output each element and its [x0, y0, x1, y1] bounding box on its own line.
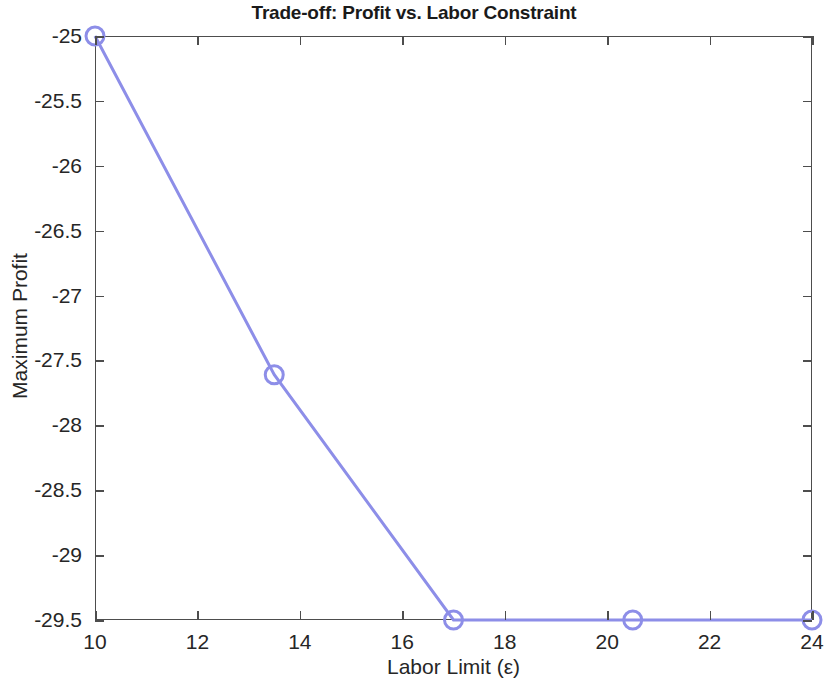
- x-axis-tick: [812, 36, 814, 45]
- y-axis-tick: [803, 166, 812, 168]
- y-axis-tick-label: -27.5: [0, 348, 82, 372]
- y-axis-tick: [95, 425, 104, 427]
- y-axis-tick: [95, 36, 104, 38]
- x-axis-tick: [607, 36, 609, 45]
- x-axis-tick: [402, 611, 404, 620]
- y-axis-tick: [95, 490, 104, 492]
- y-axis-tick: [803, 101, 812, 103]
- y-axis-tick: [803, 231, 812, 233]
- x-axis-tick: [710, 611, 712, 620]
- x-axis-tick-label: 10: [83, 630, 106, 654]
- y-axis-tick-label: -25.5: [0, 89, 82, 113]
- y-axis-tick: [95, 166, 104, 168]
- y-axis-tick: [803, 425, 812, 427]
- y-axis-tick: [803, 555, 812, 557]
- x-axis-tick-label: 18: [493, 630, 516, 654]
- y-axis-tick: [95, 231, 104, 233]
- y-axis-tick: [95, 101, 104, 103]
- y-axis-tick-label: -26: [0, 154, 82, 178]
- y-axis-tick: [803, 296, 812, 298]
- y-axis-tick: [95, 360, 104, 362]
- data-series-line: [95, 36, 812, 620]
- x-axis-tick: [607, 611, 609, 620]
- y-axis-tick-label: -29: [0, 543, 82, 567]
- x-axis-tick-label: 22: [698, 630, 721, 654]
- y-axis-tick-label: -27: [0, 284, 82, 308]
- x-axis-tick: [197, 611, 199, 620]
- y-axis-tick: [803, 360, 812, 362]
- x-axis-tick: [505, 36, 507, 45]
- x-axis-tick-label: 24: [800, 630, 823, 654]
- x-axis-tick: [710, 36, 712, 45]
- y-axis-tick: [803, 36, 812, 38]
- y-axis-tick-label: -28: [0, 413, 82, 437]
- y-axis-tick: [803, 620, 812, 622]
- x-axis-tick-label: 12: [186, 630, 209, 654]
- x-axis-tick: [95, 611, 97, 620]
- y-axis-tick-label: -26.5: [0, 219, 82, 243]
- x-axis-label: Labor Limit (ε): [95, 655, 812, 679]
- series-polyline: [95, 36, 812, 620]
- x-axis-tick: [402, 36, 404, 45]
- x-axis-tick-label: 16: [391, 630, 414, 654]
- y-axis-tick: [95, 555, 104, 557]
- y-axis-tick: [95, 296, 104, 298]
- y-axis-tick-label: -28.5: [0, 478, 82, 502]
- x-axis-tick: [300, 611, 302, 620]
- x-axis-tick-label: 14: [288, 630, 311, 654]
- plot-area: [95, 36, 812, 620]
- x-axis-tick: [197, 36, 199, 45]
- y-axis-tick-label: -25: [0, 24, 82, 48]
- y-axis-tick-label: -29.5: [0, 608, 82, 632]
- x-axis-tick: [812, 611, 814, 620]
- x-axis-tick: [300, 36, 302, 45]
- figure-canvas: Trade-off: Profit vs. Labor Constraint L…: [0, 0, 828, 693]
- chart-title: Trade-off: Profit vs. Labor Constraint: [0, 2, 828, 24]
- x-axis-tick-label: 20: [595, 630, 618, 654]
- y-axis-tick: [95, 620, 104, 622]
- x-axis-tick: [505, 611, 507, 620]
- y-axis-label: Maximum Profit: [8, 166, 32, 486]
- y-axis-tick: [803, 490, 812, 492]
